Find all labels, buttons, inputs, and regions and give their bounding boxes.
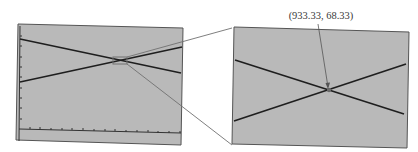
main-screen xyxy=(16,24,183,145)
intersection-point xyxy=(327,88,331,92)
main-view xyxy=(16,24,183,145)
zoom-inset xyxy=(232,27,409,148)
chart-figure: (933.33, 68.33) xyxy=(0,0,418,152)
intersection-label: (933.33, 68.33) xyxy=(289,10,354,22)
